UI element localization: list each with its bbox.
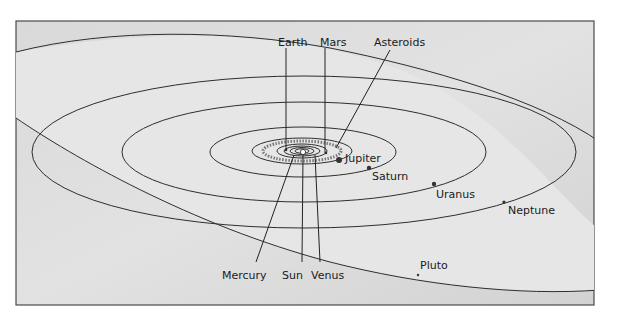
pluto-marker — [417, 274, 419, 276]
asteroids-label: Asteroids — [374, 36, 425, 49]
mercury-label: Mercury — [222, 269, 267, 282]
neptune-label: Neptune — [508, 204, 555, 217]
neptune-marker — [502, 200, 505, 203]
saturn-label: Saturn — [372, 170, 408, 183]
sun-label: Sun — [282, 269, 303, 282]
solar-system-diagram: Earth Mars Asteroids Jupiter Saturn Uran… — [0, 0, 620, 320]
sun-marker — [300, 149, 305, 154]
mars-label: Mars — [320, 36, 347, 49]
pluto-label: Pluto — [420, 259, 448, 272]
uranus-label: Uranus — [436, 188, 475, 201]
saturn-marker — [367, 166, 371, 170]
jupiter-label: Jupiter — [344, 152, 381, 165]
earth-label: Earth — [278, 36, 308, 49]
uranus-marker — [432, 182, 436, 186]
venus-label: Venus — [311, 269, 344, 282]
jupiter-marker — [336, 157, 342, 163]
